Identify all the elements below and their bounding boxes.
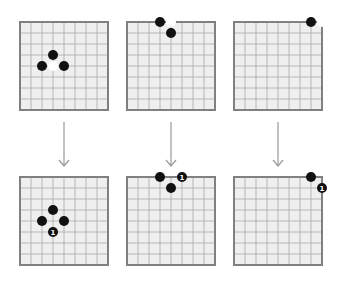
black-stone [166, 28, 176, 38]
white-stone [317, 17, 327, 27]
black-stone [48, 50, 58, 60]
black-stone [37, 216, 47, 226]
black-stone [59, 216, 69, 226]
black-stone [166, 183, 176, 193]
black-stone [155, 17, 165, 27]
board-before-center [20, 22, 108, 110]
go-capture-diagram: 111 [0, 0, 343, 286]
black-stone [37, 61, 47, 71]
white-stone [166, 17, 176, 27]
black-stone: 1 [48, 227, 58, 237]
move-number: 1 [180, 174, 185, 182]
board-before-corner [234, 17, 327, 110]
black-stone [306, 17, 316, 27]
black-stone: 1 [177, 172, 187, 182]
board-before-edge [127, 17, 215, 110]
down-arrow-icon [273, 122, 283, 166]
white-stone [48, 61, 58, 71]
black-stone [155, 172, 165, 182]
board-after-center: 1 [20, 177, 108, 265]
move-number: 1 [51, 229, 56, 237]
down-arrow-icon [166, 122, 176, 166]
board-after-corner: 1 [234, 172, 327, 265]
black-stone: 1 [317, 183, 327, 193]
black-stone [48, 205, 58, 215]
black-stone [306, 172, 316, 182]
board-after-edge: 1 [127, 172, 215, 265]
black-stone [59, 61, 69, 71]
down-arrow-icon [59, 122, 69, 166]
move-number: 1 [320, 185, 325, 193]
